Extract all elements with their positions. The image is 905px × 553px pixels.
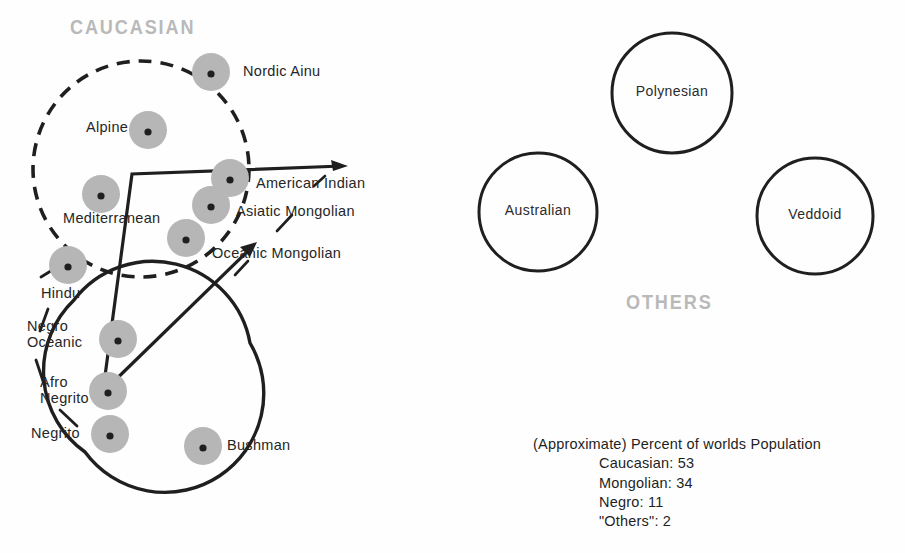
diagram-canvas: CAUCASIAN OTHERS Nordic AinuAlpineMedite… (0, 0, 905, 553)
others-circle-group (479, 33, 873, 274)
population-statistics-block: (Approximate) Percent of worlds Populati… (533, 435, 821, 531)
population-blob-center-dot-oceanic_mongolian (182, 236, 189, 243)
blob-label-negrito: Negrito (31, 426, 80, 442)
statistics-row: Caucasian: 53 (599, 454, 821, 473)
blob-label-negro_oceanic: Negro Oceanic (27, 318, 82, 350)
blob-label-american_indian: American Indian (256, 176, 365, 192)
blob-label-mediterranean: Mediterranean (63, 211, 160, 227)
population-blob-center-dot-alpine (144, 128, 151, 135)
statistics-row: "Others": 2 (599, 512, 821, 531)
blob-label-alpine: Alpine (86, 120, 128, 136)
population-blob-center-dot-mediterranean (97, 192, 104, 199)
population-blob-center-dot-nordic_ainu (207, 70, 214, 77)
blob-label-hindu: Hindu (41, 286, 80, 302)
blob-label-nordic_ainu: Nordic Ainu (243, 64, 320, 80)
statistics-rows: Caucasian: 53Mongolian: 34Negro: 11"Othe… (533, 454, 821, 531)
population-blob-center-dot-negro_oceanic (114, 337, 121, 344)
population-blob-center-dot-hindu (64, 263, 71, 270)
statistics-row: Mongolian: 34 (599, 474, 821, 493)
group-title-caucasian: CAUCASIAN (70, 16, 195, 39)
population-blob-center-dot-asiatic_mongolian (207, 203, 214, 210)
blob-label-bushman: Bushman (227, 438, 290, 454)
population-blob-center-dot-american_indian (226, 176, 233, 183)
population-blob-center-dot-afro_negrito (104, 389, 111, 396)
blob-label-oceanic_mongolian: Oceanic Mongolian (212, 246, 341, 262)
others-circle-label-polynesian: Polynesian (602, 84, 742, 99)
oceanic-branch-connector (103, 247, 252, 392)
others-circle-label-veddoid: Veddoid (745, 207, 885, 222)
blob-label-afro_negrito: Afro Negrito (40, 374, 89, 406)
leader-negrito (60, 410, 77, 426)
population-blob-center-dot-negrito (106, 432, 113, 439)
others-circle-label-australian: Australian (468, 203, 608, 218)
blob-label-asiatic_mongolian: Asiatic Mongolian (236, 204, 355, 220)
group-title-others: OTHERS (626, 291, 713, 314)
mongolian-branch-arrowhead (331, 160, 348, 171)
population-blob-center-dot-bushman (199, 444, 206, 451)
statistics-row: Negro: 11 (599, 493, 821, 512)
statistics-heading: (Approximate) Percent of worlds Populati… (533, 435, 821, 454)
